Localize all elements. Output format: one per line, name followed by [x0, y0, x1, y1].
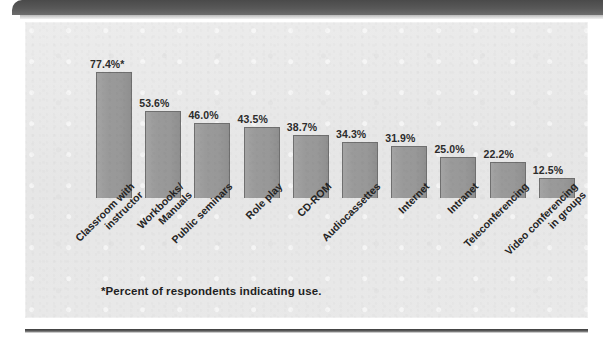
bar[interactable]: 77.4%* — [96, 72, 132, 198]
plot-area: 77.4%*Classroom with instructor53.6%Work… — [25, 22, 588, 318]
top-decorative-band — [12, 0, 603, 15]
bar-value-label: 12.5% — [533, 164, 595, 176]
bar-value-label: 53.6% — [139, 97, 201, 109]
bar-group: 77.4%* — [96, 72, 132, 198]
category-label: Video conferencing in groups — [465, 180, 588, 303]
chart-footnote: *Percent of respondents indicating use. — [101, 285, 322, 297]
bar-value-label: 77.4%* — [90, 58, 152, 70]
bar-value-label: 22.2% — [484, 148, 546, 160]
top-band-shadow — [20, 15, 603, 19]
chart-panel: 77.4%*Classroom with instructor53.6%Work… — [25, 22, 588, 318]
bottom-horizontal-rule-highlight — [25, 332, 588, 333]
